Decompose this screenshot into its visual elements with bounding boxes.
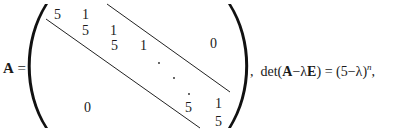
matrix-entry-rncn: 5: [215, 115, 222, 129]
ellipsis-dot: [188, 93, 190, 95]
matrix-entry-r3c3: 5: [111, 39, 118, 53]
right-paren-icon: [228, 4, 248, 128]
left-paren-icon: [28, 4, 48, 128]
lower-zero-block: 0: [84, 101, 91, 115]
close-paren: ): [316, 64, 321, 79]
determinant-formula: , det(A−λE) = (5−λ)n,: [250, 62, 375, 80]
matrix-entry-rn1cn1: 5: [185, 101, 192, 115]
ellipsis-dot: [158, 62, 160, 64]
minus-sign-2: −: [348, 64, 356, 79]
separator-comma: ,: [250, 64, 254, 79]
matrix-entry-r2c3: 1: [110, 24, 117, 38]
ellipsis-dot: [173, 77, 175, 79]
upper-zero-block: 0: [210, 37, 217, 51]
result-open: (5: [336, 64, 348, 79]
equals-sign-rhs: =: [325, 64, 333, 79]
matrix-entry-r3c4: 1: [140, 39, 147, 53]
matrix-symbol-A-rhs: A: [282, 64, 292, 79]
matrix-entry-r1c2: 1: [82, 8, 89, 22]
matrix-entry-r2c2: 5: [82, 24, 89, 38]
lower-diagonal-line: [46, 19, 200, 128]
matrix-entry-rn1cn: 1: [215, 97, 222, 111]
trailing-comma: ,: [372, 64, 376, 79]
det-operator: det: [261, 64, 278, 79]
matrix-entry-r1c1: 5: [54, 8, 61, 22]
